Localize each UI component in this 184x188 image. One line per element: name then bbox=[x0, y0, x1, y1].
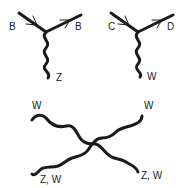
quartic-vertex-diagram bbox=[32, 115, 142, 175]
label-outgoing-d: D bbox=[167, 22, 174, 32]
label-incoming-c: C bbox=[108, 22, 115, 32]
fermion-line-incoming bbox=[19, 13, 46, 32]
boson-line-w bbox=[136, 32, 141, 77]
boson-line-top-right-to-bottom-left bbox=[32, 116, 142, 175]
label-boson-w: W bbox=[147, 72, 156, 82]
vertex-z-diagram bbox=[19, 13, 81, 78]
label-top-right-w: W bbox=[144, 101, 153, 111]
vertex-w-diagram bbox=[111, 13, 173, 77]
boson-line-z bbox=[44, 32, 49, 78]
label-top-left-w: W bbox=[32, 101, 41, 111]
feynman-diagrams-canvas bbox=[0, 0, 184, 188]
label-incoming-b: B bbox=[9, 22, 16, 32]
label-bottom-right-zw: Z, W bbox=[141, 171, 162, 181]
boson-line-top-left-to-bottom-right bbox=[32, 115, 138, 172]
label-boson-z: Z bbox=[56, 73, 62, 83]
label-outgoing-b: B bbox=[75, 22, 82, 32]
label-bottom-left-zw: Z, W bbox=[40, 175, 61, 185]
